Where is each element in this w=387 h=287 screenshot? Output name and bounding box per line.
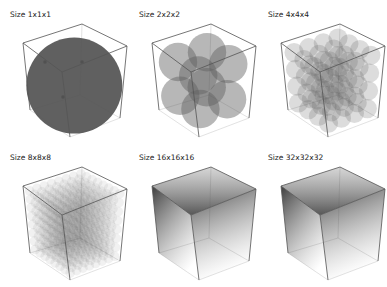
panel-1x1x1: Size 1x1x1 bbox=[0, 0, 129, 143]
cube-plot-1 bbox=[0, 0, 129, 143]
panel-8x8x8: Size 8x8x8 bbox=[0, 143, 129, 286]
sphere bbox=[59, 211, 69, 221]
sphere bbox=[317, 97, 336, 116]
cube-plot-2 bbox=[129, 0, 258, 143]
sphere bbox=[63, 244, 73, 254]
sphere bbox=[65, 268, 75, 278]
panel-title: Size 16x16x16 bbox=[139, 153, 194, 162]
cube-edge bbox=[249, 46, 256, 118]
panel-title: Size 1x1x1 bbox=[10, 10, 51, 19]
panel-title: Size 32x32x32 bbox=[268, 153, 323, 162]
sphere bbox=[181, 90, 219, 128]
cube-plot-8 bbox=[0, 143, 129, 286]
sphere bbox=[319, 114, 338, 133]
panel-title: Size 2x2x2 bbox=[139, 10, 180, 19]
panel-32x32x32: Size 32x32x32 bbox=[258, 143, 387, 286]
cube-plot-32 bbox=[258, 143, 387, 286]
panel-title: Size 4x4x4 bbox=[268, 10, 309, 19]
panel-title: Size 8x8x8 bbox=[10, 153, 51, 162]
sphere bbox=[179, 56, 217, 94]
sphere bbox=[60, 219, 70, 229]
sphere bbox=[26, 38, 122, 134]
sphere bbox=[64, 252, 74, 262]
panel-2x2x2: Size 2x2x2 bbox=[129, 0, 258, 143]
sphere bbox=[314, 64, 333, 83]
cube-edge bbox=[152, 43, 159, 110]
sphere bbox=[62, 236, 72, 246]
cube-plot-16 bbox=[129, 143, 258, 286]
sphere bbox=[65, 260, 75, 270]
panel-16x16x16: Size 16x16x16 bbox=[129, 143, 258, 286]
cube-plot-4 bbox=[258, 0, 387, 143]
sphere bbox=[61, 227, 71, 237]
panel-4x4x4: Size 4x4x4 bbox=[258, 0, 387, 143]
